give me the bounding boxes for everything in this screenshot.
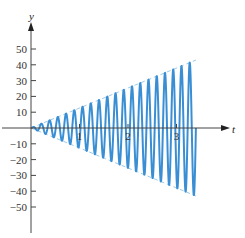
y-tick-label: 10	[16, 106, 28, 118]
oscillation-curve	[31, 63, 196, 195]
plot-curve	[31, 63, 196, 195]
resonance-chart: 5040302010−10−20−30−40−50123 y t	[0, 0, 245, 238]
x-tick-label: 1	[77, 130, 83, 142]
y-axis-label: y	[28, 10, 34, 22]
y-tick-label: 20	[16, 90, 28, 102]
x-tick-label: 3	[174, 130, 180, 142]
y-tick-label: −10	[10, 138, 28, 150]
x-tick-label: 2	[125, 130, 131, 142]
y-axis-arrow-icon	[28, 22, 34, 31]
y-tick-label: 40	[16, 59, 28, 71]
y-tick-label: 50	[16, 43, 28, 55]
y-tick-label: −50	[10, 201, 28, 213]
y-tick-label: 30	[16, 75, 28, 87]
x-axis-arrow-icon	[221, 125, 230, 131]
x-axis-label: t	[232, 123, 236, 135]
axes	[2, 22, 230, 233]
y-tick-label: −40	[10, 185, 28, 197]
y-tick-label: −20	[10, 154, 28, 166]
y-tick-label: −30	[10, 169, 28, 181]
